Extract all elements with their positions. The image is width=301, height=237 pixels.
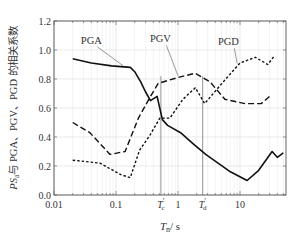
- y-axis-label: PSa与 PGA、PGV、PGD 的相关系数: [7, 25, 21, 190]
- y-axis-tick-labels: 0.00.20.40.60.81.01.2: [39, 16, 52, 201]
- annotation-leader: [234, 48, 237, 63]
- series-pgd: [73, 56, 275, 178]
- annotation-pgd: PGD: [218, 36, 239, 47]
- marker-label: T′c: [157, 197, 165, 212]
- y-tick-label: 0.6: [39, 103, 52, 114]
- x-tick-label: 1: [176, 199, 181, 210]
- annotation-pgv: PGV: [150, 33, 171, 44]
- y-tick-label: 0.4: [39, 132, 52, 143]
- y-tick-label: 1.0: [39, 45, 52, 56]
- annotation-pga: PGA: [81, 35, 102, 46]
- y-tick-label: 1.2: [39, 16, 52, 27]
- correlation-chart: PGAPGVPGD 0.00.20.40.60.81.01.2 0.010.11…: [0, 0, 301, 237]
- x-tick-label: 10: [235, 199, 245, 210]
- x-axis-label: Tn/ s: [160, 220, 180, 234]
- y-tick-label: 0.8: [39, 74, 52, 85]
- x-tick-label: 0.01: [45, 199, 63, 210]
- grid-lines: [54, 21, 286, 195]
- y-tick-label: 0.2: [39, 161, 52, 172]
- x-axis-tick-labels: 0.010.1110T′cT′d: [45, 197, 245, 212]
- marker-label: T′d: [199, 197, 207, 212]
- x-tick-label: 0.1: [110, 199, 123, 210]
- chart-canvas: PGAPGVPGD 0.00.20.40.60.81.01.2 0.010.11…: [0, 0, 301, 237]
